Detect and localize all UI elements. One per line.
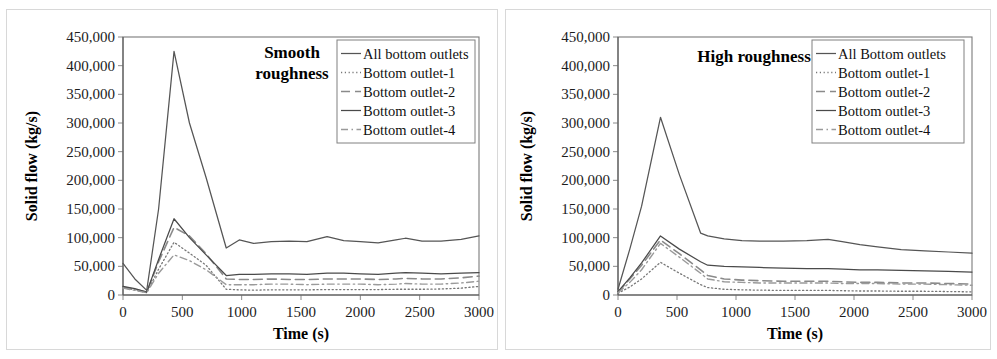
x-tick-label: 1000 [227,304,257,320]
y-tick-label: 350,000 [561,86,610,102]
legend-label: Bottom outlet-3 [838,103,930,119]
legend-label: Bottom outlet-1 [363,65,455,81]
chart-svg-smooth: 050,000100,000150,000200,000250,000300,0… [7,10,499,351]
x-axis-title: Time (s) [273,325,329,343]
y-tick-label: 50,000 [569,258,610,274]
legend-label: Bottom outlet-2 [363,84,455,100]
series-line [618,262,972,293]
x-tick-label: 2000 [839,304,869,320]
x-tick-label: 500 [171,304,194,320]
figure-two-panel-line-charts: 050,000100,000150,000200,000250,000300,0… [0,0,997,359]
y-tick-label: 200,000 [66,172,115,188]
x-tick-label: 1500 [780,304,810,320]
y-axis-title: Solid flow (kg/s) [518,111,536,221]
y-tick-label: 100,000 [561,230,610,246]
legend-label: Bottom outlet-4 [363,122,456,138]
legend-label: Bottom outlet-2 [838,84,930,100]
y-tick-label: 250,000 [561,144,610,160]
plot-area-high: 050,000100,000150,000200,000250,000300,0… [506,10,990,349]
x-tick-label: 1500 [286,304,316,320]
panel-title: Smooth [264,43,320,62]
chart-panel-smooth-roughness: 050,000100,000150,000200,000250,000300,0… [6,9,498,350]
y-tick-label: 350,000 [66,86,115,102]
legend-label: Bottom outlet-4 [838,122,931,138]
x-tick-label: 3000 [464,304,494,320]
y-tick-label: 400,000 [561,58,610,74]
x-tick-label: 2500 [405,304,435,320]
y-tick-label: 150,000 [66,201,115,217]
y-tick-label: 0 [108,287,116,303]
panel-title: roughness [255,64,329,83]
legend-label: All bottom outlets [363,46,469,62]
legend-label: Bottom outlet-3 [363,103,455,119]
chart-svg-high: 050,000100,000150,000200,000250,000300,0… [506,10,992,351]
plot-area-smooth: 050,000100,000150,000200,000250,000300,0… [7,10,497,349]
y-tick-label: 150,000 [561,201,610,217]
panel-title: High roughness [697,47,811,66]
x-tick-label: 3000 [957,304,987,320]
y-tick-label: 450,000 [561,29,610,45]
y-tick-label: 100,000 [66,230,115,246]
y-tick-label: 300,000 [66,115,115,131]
x-tick-label: 1000 [721,304,751,320]
y-tick-label: 300,000 [561,115,610,131]
y-tick-label: 400,000 [66,58,115,74]
x-tick-label: 500 [666,304,689,320]
legend-label: All Bottom outlets [838,46,946,62]
y-tick-label: 250,000 [66,144,115,160]
x-tick-label: 2500 [898,304,928,320]
x-tick-label: 0 [119,304,127,320]
y-tick-label: 450,000 [66,29,115,45]
y-axis-title: Solid flow (kg/s) [23,111,41,221]
y-tick-label: 200,000 [561,172,610,188]
x-axis-title: Time (s) [767,325,823,343]
legend-label: Bottom outlet-1 [838,65,930,81]
y-tick-label: 50,000 [74,258,115,274]
x-tick-label: 2000 [345,304,375,320]
chart-panel-high-roughness: 050,000100,000150,000200,000250,000300,0… [505,9,991,350]
y-tick-label: 0 [603,287,611,303]
x-tick-label: 0 [614,304,622,320]
series-line [123,227,479,292]
